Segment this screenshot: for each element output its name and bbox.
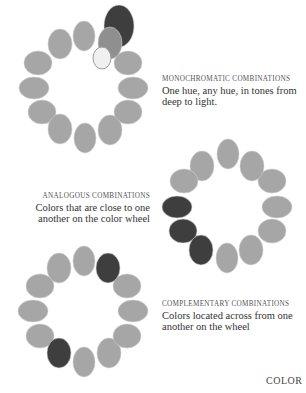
- complementary-swatch-base: [73, 246, 95, 276]
- complementary-swatch-base: [118, 300, 148, 322]
- analogous-swatch-base: [262, 196, 292, 218]
- monochromatic-swatch-light: [93, 47, 111, 69]
- analogous-swatch-base: [239, 235, 263, 265]
- complementary-swatch-dark: [47, 338, 71, 368]
- monochromatic-swatch-base: [114, 100, 142, 124]
- monochromatic-swatch-base: [73, 21, 95, 51]
- page-section-label: COLOR: [266, 375, 302, 386]
- analogous-swatch-base: [216, 243, 238, 273]
- monochromatic-description: One hue, any hue, in tones from deep to …: [162, 85, 302, 108]
- monochromatic-heading: MONOCHROMATIC COMBINATIONS: [162, 76, 302, 84]
- complementary-swatch-dark: [96, 253, 120, 283]
- complementary-wheel: [18, 246, 148, 377]
- monochromatic-swatch-base: [118, 77, 148, 99]
- analogous-caption: ANALOGOUS COMBINATIONS Colors that are c…: [10, 193, 150, 225]
- complementary-swatch-base: [18, 300, 48, 322]
- monochromatic-swatch-base: [19, 77, 49, 99]
- complementary-heading: COMPLEMENTARY COMBINATIONS: [162, 301, 302, 309]
- complementary-caption: COMPLEMENTARY COMBINATIONS Colors locate…: [162, 301, 302, 333]
- analogous-swatch-base: [258, 219, 286, 243]
- analogous-description: Colors that are close to one another on …: [10, 202, 150, 225]
- monochromatic-caption: MONOCHROMATIC COMBINATIONS One hue, any …: [162, 76, 302, 108]
- monochromatic-swatch-base: [48, 29, 72, 59]
- monochromatic-wheel: [19, 5, 148, 153]
- monochromatic-swatch-base: [48, 114, 72, 144]
- complementary-description: Colors located across from one another o…: [162, 310, 302, 333]
- analogous-swatch-base: [240, 151, 264, 181]
- analogous-wheel: [162, 139, 292, 273]
- complementary-swatch-base: [26, 274, 54, 298]
- complementary-swatch-base: [73, 347, 95, 377]
- analogous-heading: ANALOGOUS COMBINATIONS: [10, 193, 150, 201]
- monochromatic-swatch-base: [24, 51, 52, 75]
- complementary-swatch-base: [113, 324, 141, 348]
- analogous-swatch-base: [170, 169, 198, 193]
- monochromatic-swatch-base: [74, 123, 96, 153]
- analogous-swatch-base: [217, 139, 239, 169]
- analogous-swatch-dark: [162, 196, 192, 218]
- analogous-swatch-dark: [189, 235, 213, 265]
